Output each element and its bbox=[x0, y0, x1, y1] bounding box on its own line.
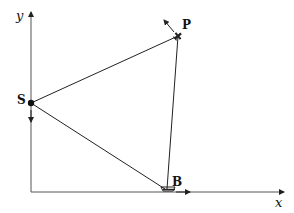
x-axis-label: x bbox=[275, 195, 283, 210]
segment-b-p bbox=[167, 36, 178, 189]
diagram-canvas: y x S P B bbox=[0, 0, 294, 213]
segment-s-p bbox=[31, 36, 178, 103]
y-axis-label: y bbox=[15, 8, 24, 23]
point-s-dot bbox=[28, 100, 34, 106]
point-s-label: S bbox=[17, 93, 26, 107]
point-p-label: P bbox=[182, 18, 191, 32]
arrow-p-direction-icon bbox=[164, 20, 174, 32]
point-b-label: B bbox=[172, 175, 182, 189]
segment-s-b bbox=[31, 103, 165, 189]
